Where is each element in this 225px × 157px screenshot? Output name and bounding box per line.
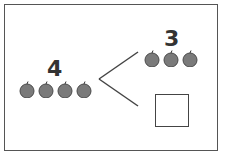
apple-icon (182, 50, 198, 66)
apple-icon (144, 50, 160, 66)
answer-box[interactable] (155, 94, 189, 127)
part-apples (144, 50, 198, 66)
apple-icon (163, 50, 179, 66)
part-number: 3 (164, 28, 179, 50)
bond-lines (0, 0, 225, 157)
